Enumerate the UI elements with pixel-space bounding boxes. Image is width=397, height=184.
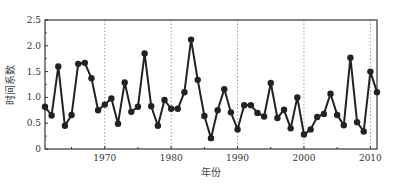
- data-point: [214, 107, 220, 113]
- data-point: [254, 110, 260, 116]
- data-point: [354, 119, 360, 125]
- data-point: [95, 107, 101, 113]
- data-point: [161, 97, 167, 103]
- data-point: [281, 107, 287, 113]
- data-point: [121, 79, 127, 85]
- data-point: [108, 95, 114, 101]
- data-point: [181, 89, 187, 95]
- data-point: [341, 122, 347, 128]
- data-point: [228, 109, 234, 115]
- data-point: [42, 103, 48, 109]
- data-point: [334, 112, 340, 118]
- data-point: [268, 80, 274, 86]
- x-tick-label: 1970: [93, 153, 116, 163]
- y-tick-label: 2.0: [27, 41, 42, 51]
- data-point: [195, 77, 201, 83]
- data-point: [148, 103, 154, 109]
- data-point: [115, 121, 121, 127]
- data-point: [261, 113, 267, 119]
- data-point: [367, 68, 373, 74]
- data-point: [128, 109, 134, 115]
- data-point: [248, 102, 254, 108]
- data-point: [175, 106, 181, 112]
- data-point: [221, 86, 227, 92]
- data-point: [307, 126, 313, 132]
- data-point: [347, 54, 353, 60]
- data-point: [201, 113, 207, 119]
- x-tick-label: 2010: [359, 153, 382, 163]
- data-point: [102, 101, 108, 107]
- series-line: [45, 40, 377, 139]
- data-point: [321, 111, 327, 117]
- x-axis-title: 年份: [201, 166, 221, 178]
- data-point: [327, 91, 333, 97]
- data-point: [241, 102, 247, 108]
- data-point: [234, 126, 240, 132]
- data-point-markers: [42, 36, 380, 141]
- data-point: [168, 106, 174, 112]
- data-point: [274, 115, 280, 121]
- y-tick-label: 0.5: [27, 118, 42, 128]
- data-point: [361, 128, 367, 134]
- x-tick-label: 1980: [160, 153, 183, 163]
- data-point: [55, 63, 61, 69]
- time-coefficient-chart: 00.51.01.52.02.5 19701980199020002010 时间…: [0, 0, 397, 184]
- data-point: [301, 131, 307, 137]
- data-point: [294, 94, 300, 100]
- data-point: [374, 89, 380, 95]
- data-point: [82, 60, 88, 66]
- data-point: [88, 75, 94, 81]
- data-point: [62, 123, 68, 129]
- y-tick-label: 2.5: [27, 15, 42, 25]
- data-point: [68, 112, 74, 118]
- data-point: [314, 114, 320, 120]
- data-point: [287, 125, 293, 131]
- data-point: [48, 112, 54, 118]
- x-tick-label: 1990: [226, 153, 249, 163]
- y-tick-label: 1.5: [27, 67, 42, 77]
- data-point: [75, 61, 81, 67]
- y-axis-title: 时间系数: [4, 65, 16, 105]
- data-point: [188, 36, 194, 42]
- y-tick-label: 1.0: [27, 92, 42, 102]
- data-point: [141, 50, 147, 56]
- plot-frame: [45, 20, 377, 149]
- data-point: [135, 103, 141, 109]
- x-tick-label: 2000: [293, 153, 316, 163]
- data-point: [155, 123, 161, 129]
- y-tick-label: 0: [35, 144, 41, 154]
- data-point: [208, 135, 214, 141]
